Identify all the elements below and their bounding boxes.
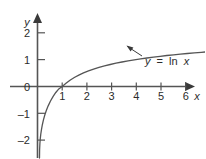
- y-tick-label-minus-1: –1: [18, 108, 30, 120]
- plot-area: 1 2 3 4 5 6 2 1 0 –1 –2 y x y = ln x: [0, 0, 205, 159]
- x-tick-label-6: 6: [183, 90, 189, 102]
- axes-group: [10, 13, 195, 158]
- x-tick-label-1: 1: [59, 90, 65, 102]
- curve-annotation-leader: [127, 46, 143, 57]
- x-tick-label-5: 5: [158, 90, 164, 102]
- y-axis-label: y: [23, 16, 31, 28]
- annotation-arrowhead: [127, 46, 134, 52]
- y-tick-label-0: 0: [24, 81, 30, 93]
- x-tick-label-4: 4: [133, 90, 139, 102]
- x-axis-label: x: [193, 90, 200, 102]
- y-axis-arrowhead: [33, 13, 42, 23]
- curve-equation-argument: x: [183, 55, 190, 67]
- y-tick-label-1: 1: [24, 54, 30, 66]
- y-tick-label-minus-2: –2: [18, 134, 30, 146]
- x-tick-labels: 1 2 3 4 5 6: [59, 90, 189, 102]
- logarithm-graph-figure: 1 2 3 4 5 6 2 1 0 –1 –2 y x y = ln x: [0, 0, 205, 159]
- curve-equation-function: ln: [169, 55, 178, 67]
- x-tick-label-3: 3: [109, 90, 115, 102]
- ln-curve: [40, 52, 206, 158]
- curve-equation-label: y = ln x: [144, 55, 190, 67]
- curve-equation-equals: =: [157, 55, 163, 67]
- y-tick-label-2: 2: [24, 27, 30, 39]
- x-tick-label-2: 2: [84, 90, 90, 102]
- curve-equation-lhs: y: [144, 55, 152, 67]
